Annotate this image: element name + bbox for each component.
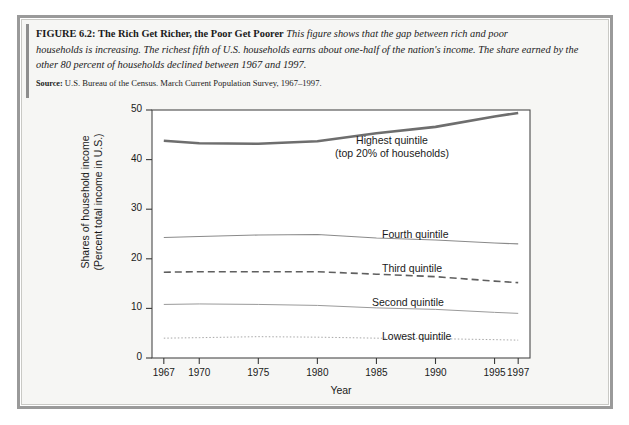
figure-number: FIGURE 6.2: bbox=[36, 28, 95, 39]
source-label: Source: bbox=[36, 79, 63, 88]
x-tick-label: 1980 bbox=[301, 367, 333, 378]
x-tick-label: 1967 bbox=[148, 367, 180, 378]
series-label-line1: Highest quintile bbox=[312, 134, 472, 147]
caption-text-1: This figure shows that the gap between r… bbox=[286, 28, 508, 39]
y-tick-label: 30 bbox=[120, 202, 142, 213]
y-tick-label: 10 bbox=[120, 301, 142, 312]
y-axis-label-line2: (Percent total income in U.S.) bbox=[92, 127, 105, 277]
series-label-line1: Fourth quintile bbox=[382, 228, 502, 241]
chart-area: Shares of household income (Percent tota… bbox=[60, 100, 560, 400]
x-tick-label: 1997 bbox=[502, 367, 534, 378]
caption-line-1: FIGURE 6.2: The Rich Get Richer, the Poo… bbox=[36, 26, 588, 42]
series-label-line2: (top 20% of households) bbox=[312, 147, 472, 160]
x-tick-label: 1985 bbox=[360, 367, 392, 378]
series-label-line1: Second quintile bbox=[372, 296, 502, 309]
figure-page: FIGURE 6.2: The Rich Get Richer, the Poo… bbox=[0, 0, 629, 425]
caption-accent-bar bbox=[26, 24, 29, 98]
series-label-line1: Lowest quintile bbox=[382, 330, 502, 343]
y-tick-label: 40 bbox=[120, 153, 142, 164]
y-tick-label: 0 bbox=[120, 351, 142, 362]
series-label-line1: Third quintile bbox=[382, 262, 502, 275]
y-axis-label-line1: Shares of household income bbox=[79, 127, 92, 277]
x-tick-label: 1990 bbox=[420, 367, 452, 378]
figure-source: Source: U.S. Bureau of the Census. March… bbox=[36, 78, 322, 88]
caption-line-2: households is increasing. The richest fi… bbox=[36, 42, 588, 58]
series-label-highest-quintile: Highest quintile(top 20% of households) bbox=[312, 134, 472, 159]
source-text: U.S. Bureau of the Census. March Current… bbox=[65, 78, 322, 88]
figure-caption: FIGURE 6.2: The Rich Get Richer, the Poo… bbox=[36, 26, 588, 73]
x-tick-label: 1970 bbox=[183, 367, 215, 378]
series-label-third-quintile: Third quintile bbox=[382, 262, 502, 275]
series-label-lowest-quintile: Lowest quintile bbox=[382, 330, 502, 343]
figure-title: The Rich Get Richer, the Poor Get Poorer bbox=[98, 28, 284, 39]
y-tick-label: 20 bbox=[120, 252, 142, 263]
caption-line-3: other 80 percent of households declined … bbox=[36, 57, 588, 73]
x-axis-label: Year bbox=[152, 384, 530, 396]
series-label-fourth-quintile: Fourth quintile bbox=[382, 228, 502, 241]
y-tick-label: 50 bbox=[120, 103, 142, 114]
series-label-second-quintile: Second quintile bbox=[372, 296, 502, 309]
x-tick-label: 1975 bbox=[242, 367, 274, 378]
y-axis-label: Shares of household income (Percent tota… bbox=[79, 127, 119, 277]
